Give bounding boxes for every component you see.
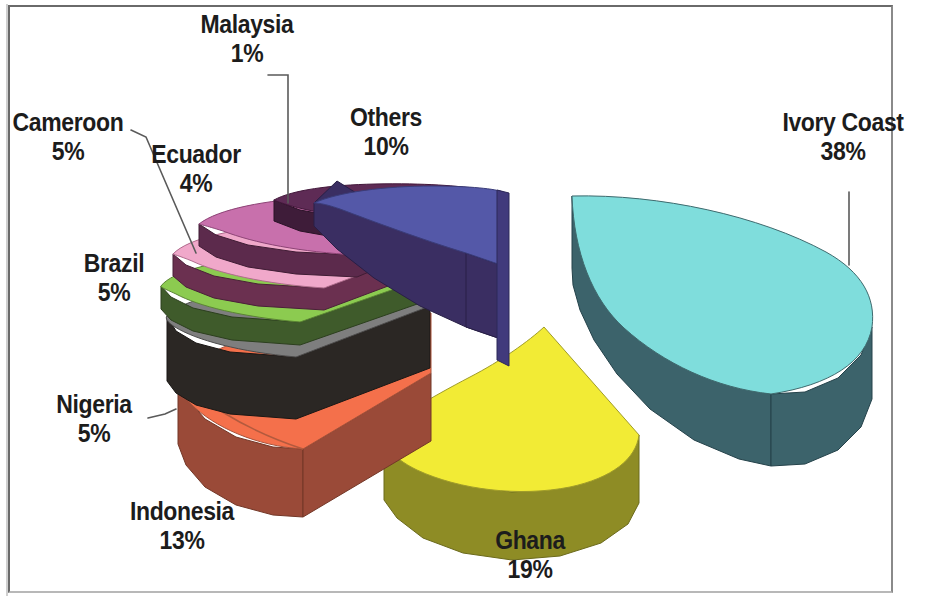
- label-ghana-name: Ghana: [495, 526, 565, 554]
- leader-line-nigeria: [148, 409, 176, 418]
- label-cameroon-pct: 5%: [4, 137, 133, 166]
- label-ecuador-name: Ecuador: [151, 140, 240, 168]
- label-cameroon-name: Cameroon: [13, 108, 124, 136]
- label-ivory-coast-pct: 38%: [768, 137, 917, 166]
- label-ghana-pct: 19%: [475, 555, 585, 584]
- label-malaysia: Malaysia 1%: [180, 10, 314, 67]
- label-others-pct: 10%: [330, 132, 442, 161]
- label-ecuador-pct: 4%: [136, 169, 256, 198]
- label-nigeria-name: Nigeria: [56, 390, 131, 418]
- label-ecuador: Ecuador 4%: [136, 140, 256, 197]
- label-others-name: Others: [350, 103, 422, 131]
- pie-slice-others-side2: [466, 253, 501, 339]
- label-indonesia-name: Indonesia: [130, 497, 234, 525]
- label-ivory-coast-name: Ivory Coast: [782, 108, 903, 136]
- label-brazil-pct: 5%: [64, 278, 163, 307]
- pie-slice-others-cut-face: [497, 190, 509, 366]
- label-ivory-coast: Ivory Coast 38%: [768, 108, 917, 165]
- leader-line-malaysia: [268, 75, 288, 203]
- label-brazil: Brazil 5%: [64, 249, 163, 306]
- label-brazil-name: Brazil: [84, 249, 144, 277]
- label-indonesia: Indonesia 13%: [110, 497, 254, 554]
- label-malaysia-name: Malaysia: [201, 10, 294, 38]
- label-ghana: Ghana 19%: [475, 526, 585, 583]
- label-nigeria: Nigeria 5%: [41, 390, 148, 447]
- pie-chart-screenshot: Malaysia 1% Cameroon 5% Ecuador 4% Other…: [0, 0, 925, 607]
- label-nigeria-pct: 5%: [41, 419, 148, 448]
- label-indonesia-pct: 13%: [110, 526, 254, 555]
- label-malaysia-pct: 1%: [180, 39, 314, 68]
- label-others: Others 10%: [330, 103, 442, 160]
- label-cameroon: Cameroon 5%: [4, 108, 133, 165]
